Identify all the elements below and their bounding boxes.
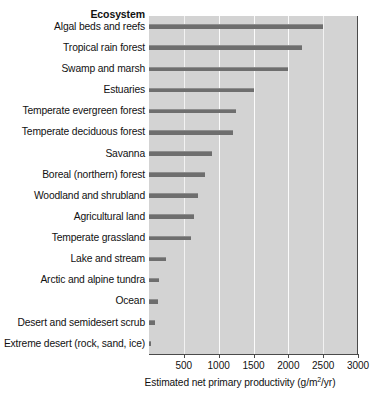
bar <box>149 67 288 72</box>
category-label: Tropical rain forest <box>0 42 145 53</box>
bar <box>149 88 254 93</box>
category-label: Temperate grassland <box>0 232 145 243</box>
x-tick-label: 2000 <box>277 360 299 371</box>
category-label: Woodland and shrubland <box>0 190 145 201</box>
category-label: Algal beds and reefs <box>0 21 145 32</box>
category-label: Savanna <box>0 148 145 159</box>
category-label: Lake and stream <box>0 253 145 264</box>
bar <box>149 45 302 50</box>
plot-inner <box>149 16 357 354</box>
bar <box>149 257 166 262</box>
x-tick-label: 500 <box>175 360 192 371</box>
bar <box>149 193 198 198</box>
category-label: Arctic and alpine tundra <box>0 274 145 285</box>
x-tick <box>254 354 255 358</box>
bar <box>149 130 233 135</box>
category-label: Desert and semidesert scrub <box>0 317 145 328</box>
category-label: Ocean <box>0 295 145 306</box>
bar <box>149 172 205 177</box>
x-tick <box>219 354 220 358</box>
top-cut-caption <box>100 0 360 4</box>
bar <box>149 214 194 219</box>
bar <box>149 278 159 283</box>
x-tick <box>323 354 324 358</box>
category-label: Temperate evergreen forest <box>0 105 145 116</box>
category-label: Temperate deciduous forest <box>0 126 145 137</box>
x-tick <box>358 354 359 358</box>
category-label: Swamp and marsh <box>0 63 145 74</box>
npp-bar-chart: Ecosystem Algal beds and reefsTropical r… <box>0 0 375 399</box>
bar <box>149 236 191 241</box>
bar <box>149 151 212 156</box>
x-tick-label: 3000 <box>347 360 369 371</box>
category-label-list: Algal beds and reefsTropical rain forest… <box>0 16 145 354</box>
bar <box>149 109 236 114</box>
plot-area <box>149 16 358 354</box>
x-tick <box>184 354 185 358</box>
x-axis-title-suffix: /yr) <box>321 377 335 388</box>
x-tick-label: 2500 <box>312 360 334 371</box>
gridline-2000 <box>288 16 289 354</box>
gridline-2500 <box>323 16 324 354</box>
bar <box>149 24 323 29</box>
x-tick <box>288 354 289 358</box>
x-axis-title-prefix: Estimated net primary productivity (g/m <box>145 377 318 388</box>
category-label: Estuaries <box>0 84 145 95</box>
category-label: Agricultural land <box>0 211 145 222</box>
x-axis-title: Estimated net primary productivity (g/m2… <box>110 376 370 388</box>
x-tick-label: 1500 <box>242 360 264 371</box>
bar <box>149 320 155 325</box>
category-label: Extreme desert (rock, sand, ice) <box>0 338 145 349</box>
bar <box>149 341 151 346</box>
category-label: Boreal (northern) forest <box>0 169 145 180</box>
x-tick-label: 1000 <box>208 360 230 371</box>
bar <box>149 299 158 304</box>
